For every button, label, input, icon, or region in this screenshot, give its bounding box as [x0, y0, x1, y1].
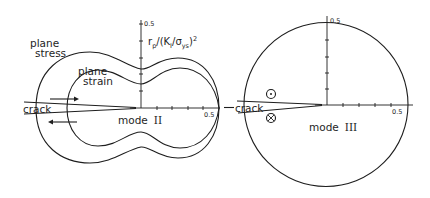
x-tick-label-right: 0.5	[392, 108, 402, 116]
x-tick-label-left: 0.5	[204, 111, 214, 119]
mode-ii-panel: 0.5 0.5 rp/(KI/σys)2 crack plane stress …	[23, 20, 220, 163]
plastic-zone-circle	[244, 23, 408, 187]
y-tick-label-right: 0.5	[330, 17, 340, 25]
into-plane-cross-icon	[267, 114, 276, 123]
crack-label-left: crack	[23, 103, 52, 115]
plane-strain-label-line2: strain	[83, 75, 113, 87]
right-arrow-icon	[50, 97, 79, 102]
crack-label-right: crack	[235, 102, 264, 114]
mode-ii-label: modeII	[118, 114, 162, 126]
out-of-plane-dot-icon	[267, 90, 276, 99]
mode-iii-panel: 0.5 0.5 crack modeIII	[224, 16, 413, 187]
y-axis-label: rp/(KI/σys)2	[148, 35, 197, 50]
crack-tip-plastic-zone-figure: 0.5 0.5 rp/(KI/σys)2 crack plane stress …	[0, 0, 430, 198]
left-arrow-icon	[48, 120, 77, 125]
mode-iii-label: modeIII	[309, 121, 357, 133]
plane-stress-label-line2: stress	[35, 47, 66, 59]
y-tick-label-left: 0.5	[144, 20, 154, 28]
